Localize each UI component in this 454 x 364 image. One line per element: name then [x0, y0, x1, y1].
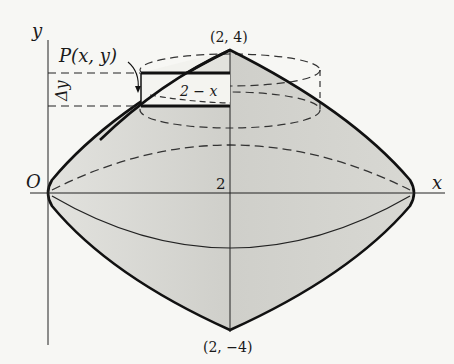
x-axis-label: x: [432, 172, 442, 193]
delta-y-label: Δy: [52, 79, 71, 102]
arrow-head-icon: [135, 86, 141, 93]
origin-label: O: [26, 171, 41, 192]
solid-of-revolution-diagram: y x O 2 (2, 4) (2, −4) P(x, y) 2 − x Δy: [0, 0, 454, 364]
x-tick-2: 2: [216, 175, 226, 193]
bottom-point-label: (2, −4): [203, 339, 252, 355]
top-point-label: (2, 4): [210, 29, 248, 45]
upper-left-light-region: [140, 50, 230, 73]
solid-body: [48, 50, 414, 330]
pointer-arrow: [128, 62, 138, 90]
radius-label: 2 − x: [179, 83, 218, 99]
y-axis-label: y: [31, 20, 43, 41]
point-p-label: P(x, y): [58, 45, 117, 66]
